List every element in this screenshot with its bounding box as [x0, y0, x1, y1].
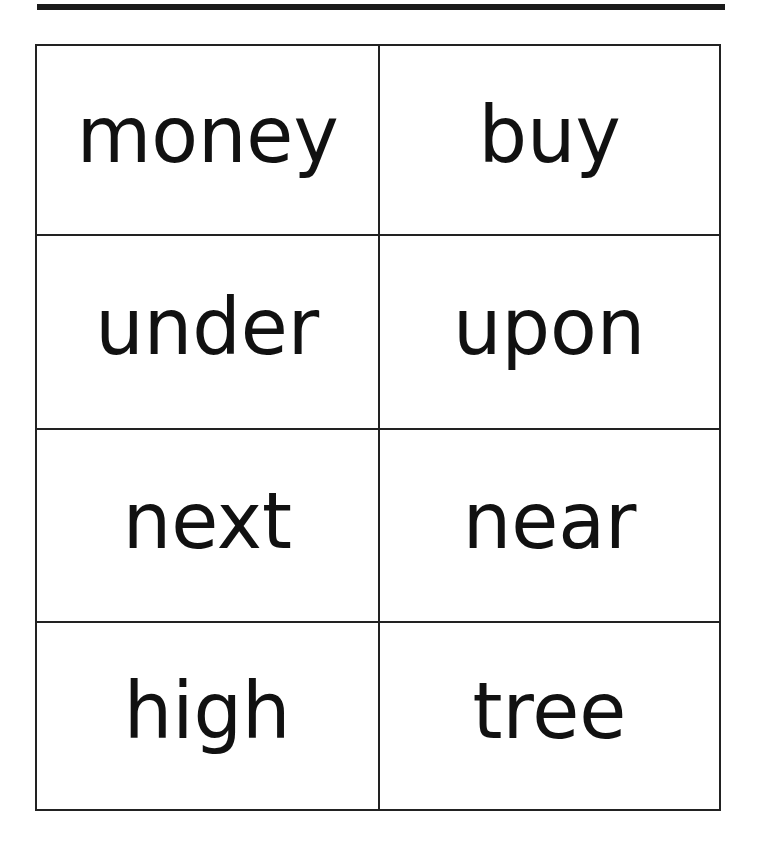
card-word: next [123, 482, 292, 570]
card-high: high [37, 623, 380, 809]
card-buy: buy [380, 46, 719, 236]
top-rule [37, 4, 725, 10]
card-upon: upon [380, 236, 719, 430]
card-tree: tree [380, 623, 719, 809]
card-word: buy [478, 96, 620, 184]
card-word: high [124, 672, 291, 760]
card-next: next [37, 430, 380, 623]
card-word: tree [473, 672, 627, 760]
card-word: under [96, 288, 320, 376]
flashcard-grid: money buy under upon next near high tree [35, 44, 721, 811]
card-near: near [380, 430, 719, 623]
card-under: under [37, 236, 380, 430]
card-money: money [37, 46, 380, 236]
card-word: money [77, 96, 339, 184]
card-word: near [463, 482, 637, 570]
card-word: upon [453, 288, 645, 376]
